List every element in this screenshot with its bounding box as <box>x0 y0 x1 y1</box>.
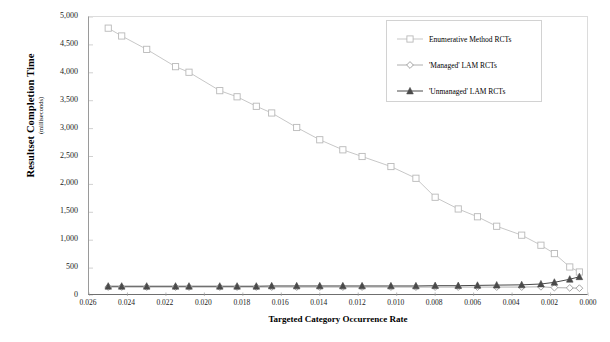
y-axis-tick-labels: 05001,0001,5002,0002,5003,0003,5004,0004… <box>30 0 78 342</box>
chart-figure: Resultset Completion Time (milliseconds)… <box>0 0 610 342</box>
data-point-open-square <box>119 33 125 39</box>
data-point-open-square <box>567 264 573 270</box>
x-axis-tick-labels: 0.0260.0240.0220.0200.0180.0160.0140.012… <box>0 298 610 312</box>
legend-item: 'Unmanaged' LAM RCTs <box>395 85 505 97</box>
y-axis-tick-label: 5,000 <box>34 11 78 20</box>
y-axis-tick-label: 3,500 <box>34 95 78 104</box>
data-point-open-square <box>144 46 150 52</box>
data-point-open-diamond <box>576 285 583 292</box>
x-axis-title: Targeted Category Occurrence Rate <box>88 314 588 324</box>
data-point-open-square <box>340 147 346 153</box>
y-axis-tick-label: 3,000 <box>34 123 78 132</box>
data-point-open-diamond <box>407 62 414 69</box>
data-point-open-square <box>407 36 413 42</box>
x-axis-tick-label: 0.000 <box>565 298 610 307</box>
legend-marker-open-diamond-icon <box>395 59 425 71</box>
data-point-open-square <box>217 88 223 94</box>
y-axis-tick-label: 4,000 <box>34 67 78 76</box>
data-point-open-square <box>186 69 192 75</box>
data-point-open-square <box>172 64 178 70</box>
data-point-open-square <box>474 214 480 220</box>
legend-marker-open-square-icon <box>395 33 425 45</box>
y-axis-tick-label: 2,500 <box>34 151 78 160</box>
y-axis-tick-label: 1,000 <box>34 234 78 243</box>
legend-item-label: Enumerative Method RCTs <box>429 35 511 44</box>
data-point-open-square <box>105 25 111 31</box>
data-point-open-square <box>519 232 525 238</box>
data-point-open-square <box>538 242 544 248</box>
data-point-open-square <box>494 223 500 229</box>
data-point-open-square <box>432 194 438 200</box>
legend-item: Enumerative Method RCTs <box>395 33 511 45</box>
data-point-open-square <box>388 163 394 169</box>
legend-item-label: 'Managed' LAM RCTs <box>429 61 497 70</box>
data-point-open-square <box>455 206 461 212</box>
data-point-open-square <box>234 94 240 100</box>
y-axis-tick-label: 4,500 <box>34 39 78 48</box>
legend-item: 'Managed' LAM RCTs <box>395 59 497 71</box>
y-axis-tick-label: 500 <box>34 262 78 271</box>
data-point-open-square <box>413 175 419 181</box>
y-axis-tick-label: 2,000 <box>34 178 78 187</box>
y-axis-tick-label: 1,500 <box>34 206 78 215</box>
data-point-open-square <box>359 153 365 159</box>
legend-marker-filled-triangle-icon <box>395 85 425 97</box>
data-point-open-square <box>551 250 557 256</box>
data-point-open-square <box>253 103 259 109</box>
data-point-open-square <box>269 110 275 116</box>
legend-item-label: 'Unmanaged' LAM RCTs <box>429 87 505 96</box>
chart-legend: Enumerative Method RCTs'Managed' LAM RCT… <box>386 20 542 102</box>
data-point-open-diamond <box>566 285 573 292</box>
data-point-open-square <box>294 124 300 130</box>
data-point-open-square <box>317 137 323 143</box>
